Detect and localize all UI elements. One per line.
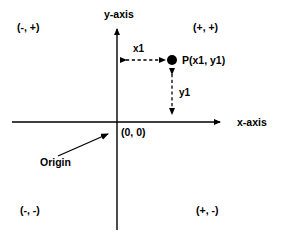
quadrant-label-q2: (-, +): [17, 22, 39, 33]
origin-callout-label: Origin: [40, 157, 71, 168]
quadrant-label-q3: (-, -): [20, 205, 40, 216]
y1-segment-label: y1: [179, 88, 190, 98]
quadrant-label-q4: (+, -): [196, 205, 218, 216]
point-p-dot: [167, 55, 177, 65]
origin-coordinate-label: (0, 0): [121, 127, 146, 138]
point-p-label: P(x1, y1): [182, 55, 225, 66]
x-axis-label: x-axis: [237, 117, 267, 128]
x1-segment-label: x1: [133, 44, 144, 54]
coordinate-plane-diagram: y-axis x-axis (-, +) (+, +) (-, -) (+, -…: [0, 0, 284, 240]
y-axis-label: y-axis: [104, 9, 134, 20]
quadrant-label-q1: (+, +): [193, 22, 218, 33]
origin-callout-arrow: [58, 134, 108, 156]
